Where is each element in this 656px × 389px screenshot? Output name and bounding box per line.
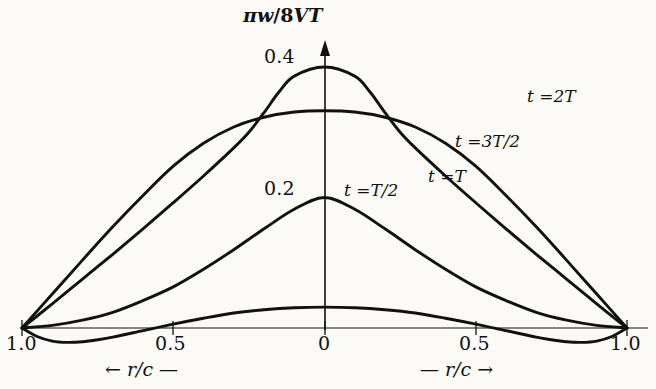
- curve-label-2T: t =2T: [527, 86, 576, 106]
- figure-container: πw/8VT 0.4 0.2 1.0 0.5 0 0.5 1.0 ← r/c —…: [0, 0, 656, 389]
- y-tick-label-0.2: 0.2: [264, 177, 295, 199]
- y-tick-label-0.4: 0.4: [264, 45, 295, 67]
- x-tick-label-center-0: 0: [318, 332, 330, 354]
- x-tick-label-left-1.0: 1.0: [6, 332, 37, 354]
- x-axis-label-right: — r/c →: [420, 358, 493, 380]
- chart-canvas: [0, 0, 656, 389]
- x-tick-label-right-0.5: 0.5: [459, 332, 490, 354]
- x-axis-label-left: ← r/c —: [105, 358, 178, 380]
- y-axis-arrowhead: [320, 40, 330, 56]
- curve-label-T: t =T: [428, 166, 466, 186]
- y-axis-label: πw/8VT: [243, 4, 322, 26]
- curve-label-3T-2: t =3T/2: [455, 131, 520, 151]
- curve-label-T-2: t =T/2: [344, 180, 398, 200]
- x-tick-label-right-1.0: 1.0: [610, 332, 641, 354]
- x-tick-label-left-0.5: 0.5: [155, 332, 186, 354]
- axes-group: [22, 40, 648, 330]
